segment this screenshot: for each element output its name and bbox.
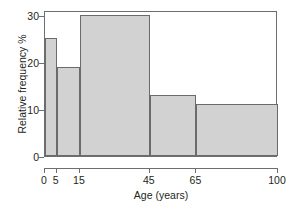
x-tick-label: 0 — [41, 175, 47, 186]
y-tick-mark — [39, 110, 44, 111]
bars-group — [45, 12, 276, 156]
histogram-bar — [57, 67, 80, 156]
x-tick-mark — [56, 168, 57, 173]
x-tick-label: 100 — [268, 175, 286, 186]
x-tick-label: 45 — [143, 175, 155, 186]
histogram-bar — [80, 15, 150, 156]
x-axis-label: Age (years) — [0, 189, 288, 201]
y-tick-mark — [39, 157, 44, 158]
plot-area — [44, 11, 277, 157]
x-tick-label: 65 — [190, 175, 202, 186]
y-axis-label: Relative frequency % — [16, 11, 28, 157]
x-tick-label: 15 — [73, 175, 85, 186]
histogram-figure: 0102030 05154565100 Age (years) Relative… — [0, 0, 288, 211]
x-axis-label-text: Age (years) — [134, 189, 188, 201]
y-tick-mark — [39, 16, 44, 17]
histogram-bar — [150, 95, 197, 156]
y-tick-label: 0 — [33, 152, 39, 163]
x-tick-mark — [149, 168, 150, 173]
y-tick-mark — [39, 63, 44, 64]
histogram-bar — [45, 38, 57, 156]
x-tick-mark — [79, 168, 80, 173]
x-tick-mark — [195, 168, 196, 173]
x-tick-mark — [277, 168, 278, 173]
histogram-bar — [196, 104, 278, 156]
x-tick-label: 5 — [53, 175, 59, 186]
y-tick-label: 20 — [27, 58, 39, 69]
x-tick-mark — [44, 168, 45, 173]
y-tick-label: 30 — [27, 11, 39, 22]
y-tick-label: 10 — [27, 105, 39, 116]
